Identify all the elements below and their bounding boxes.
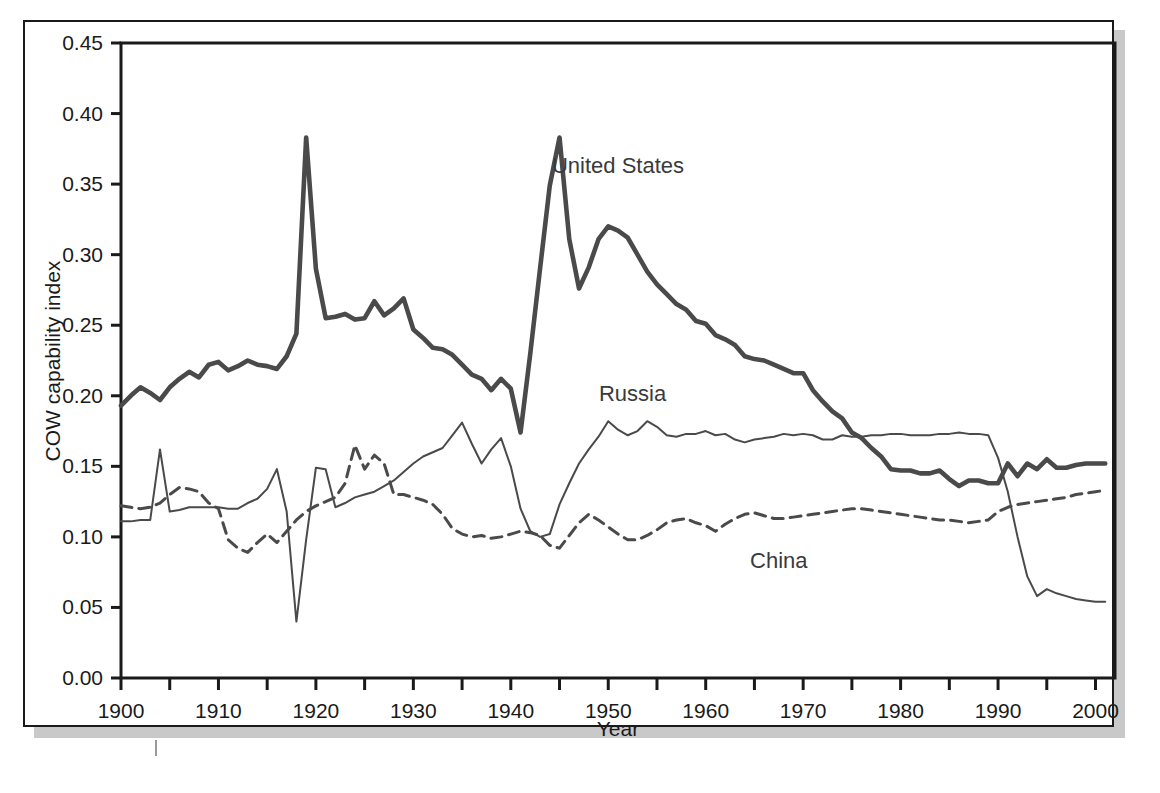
x-tick-label: 1910 bbox=[195, 699, 242, 722]
series-line-united-states bbox=[121, 138, 1105, 487]
x-tick-label: 1990 bbox=[975, 699, 1022, 722]
y-tick-label: 0.00 bbox=[62, 666, 103, 689]
x-tick-label: 1960 bbox=[682, 699, 729, 722]
x-tick-label: 1900 bbox=[98, 699, 145, 722]
y-tick-label: 0.20 bbox=[62, 384, 103, 407]
y-tick-label: 0.25 bbox=[62, 313, 103, 336]
x-tick-label: 1930 bbox=[390, 699, 437, 722]
x-tick-label: 1920 bbox=[293, 699, 340, 722]
x-tick-label: 2000 bbox=[1072, 699, 1119, 722]
series-annotation: Russia bbox=[599, 381, 667, 406]
x-tick-label: 1980 bbox=[877, 699, 924, 722]
y-tick-labels: 0.000.050.100.150.200.250.300.350.400.45 bbox=[62, 31, 103, 689]
y-tick-label: 0.40 bbox=[62, 102, 103, 125]
y-tick-label: 0.05 bbox=[62, 595, 103, 618]
figure-root: 0.000.050.100.150.200.250.300.350.400.45… bbox=[0, 0, 1160, 793]
x-tick-label: 1970 bbox=[780, 699, 827, 722]
series-annotation: China bbox=[750, 548, 808, 573]
series-annotation: United States bbox=[552, 153, 684, 178]
y-tick-label: 0.10 bbox=[62, 525, 103, 548]
x-axis-title: Year bbox=[597, 717, 639, 740]
y-axis-title: COW capability index bbox=[41, 260, 64, 461]
series-line-china bbox=[121, 445, 1105, 552]
line-chart: 0.000.050.100.150.200.250.300.350.400.45… bbox=[0, 0, 1160, 793]
y-tick-label: 0.45 bbox=[62, 31, 103, 54]
series-layer bbox=[121, 138, 1105, 622]
y-tick-label: 0.35 bbox=[62, 172, 103, 195]
y-tick-label: 0.30 bbox=[62, 243, 103, 266]
x-tick-label: 1940 bbox=[487, 699, 534, 722]
y-tick-label: 0.15 bbox=[62, 454, 103, 477]
